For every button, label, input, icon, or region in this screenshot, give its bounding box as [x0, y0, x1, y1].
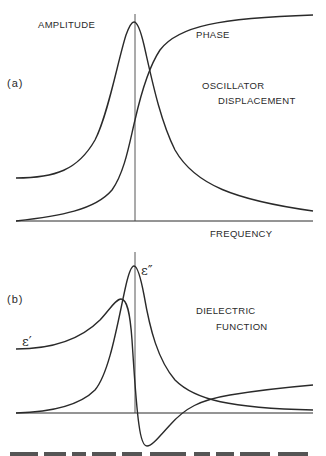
- displacement-label: DISPLACEMENT: [218, 95, 296, 106]
- frequency-label: FREQUENCY: [210, 228, 273, 239]
- oscillator-label: OSCILLATOR: [202, 80, 264, 91]
- epsilon-real-label: ε′: [22, 334, 32, 349]
- amplitude-label: AMPLITUDE: [38, 19, 95, 30]
- caption-fragment: [10, 452, 308, 456]
- epsilon-imag-curve: [16, 266, 313, 413]
- panel-a: AMPLITUDE PHASE (a) OSCILLATOR DISPLACEM…: [7, 14, 313, 239]
- phase-curve: [16, 15, 313, 221]
- resonance-diagram: AMPLITUDE PHASE (a) OSCILLATOR DISPLACEM…: [0, 0, 326, 456]
- panel-b-tag: (b): [7, 293, 23, 305]
- epsilon-imag-label: ε″: [141, 263, 153, 278]
- function-label: FUNCTION: [216, 321, 267, 332]
- amplitude-curve: [16, 22, 313, 211]
- epsilon-real-curve: [16, 299, 313, 446]
- panel-a-tag: (a): [7, 77, 23, 89]
- dielectric-label: DIELECTRIC: [196, 305, 255, 316]
- phase-label: PHASE: [196, 29, 230, 40]
- panel-b: (b) ε″ DIELECTRIC FUNCTION ε′: [7, 252, 313, 446]
